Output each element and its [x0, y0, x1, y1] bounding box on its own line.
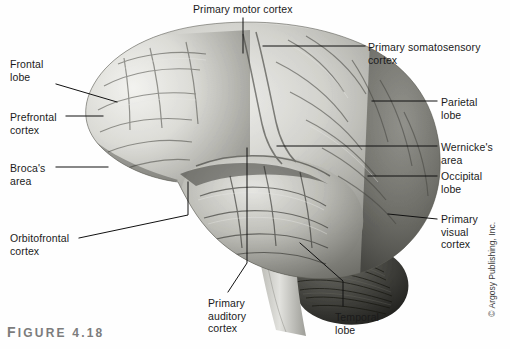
label-prefrontal-cortex: Prefrontal cortex: [10, 111, 57, 136]
figure-caption: FIGURE 4.18: [7, 324, 104, 340]
figure-caption-number: 4.18: [72, 326, 104, 340]
label-primary-motor-cortex: Primary motor cortex: [193, 3, 293, 16]
label-primary-visual-cortex: Primary visual cortex: [441, 213, 478, 251]
label-orbitofrontal-cortex: Orbitofrontal cortex: [10, 232, 69, 257]
label-primary-somatosensory-cortex: Primary somatosensory cortex: [368, 41, 510, 66]
brain-anatomy-figure: Primary motor cortex Primary somatosenso…: [0, 0, 510, 349]
label-brocas-area: Broca's area: [10, 162, 45, 187]
figure-caption-word: IGURE: [18, 326, 67, 340]
label-primary-auditory-cortex: Primary auditory cortex: [208, 297, 246, 335]
label-occipital-lobe: Occipital lobe: [441, 170, 482, 195]
label-frontal-lobe: Frontal lobe: [10, 58, 43, 83]
leader-orbitofrontal-cortex: [79, 182, 188, 238]
label-wernickes-area: Wernicke's area: [441, 141, 493, 166]
figure-caption-initial: F: [7, 324, 18, 340]
copyright-notice: © Argosy Publishing, Inc.: [487, 222, 497, 317]
label-temporal-lobe: Temporal lobe: [335, 311, 379, 336]
label-parietal-lobe: Parietal lobe: [441, 96, 477, 121]
